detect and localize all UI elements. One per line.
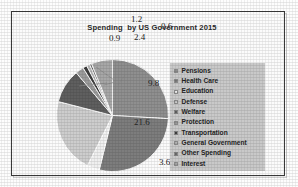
- legend-label: Interest: [182, 161, 206, 168]
- legend-item[interactable]: Transportation: [174, 128, 265, 138]
- legend-swatch-icon: [174, 162, 178, 166]
- legend-swatch-icon: [174, 121, 178, 125]
- legend-swatch-icon: [174, 100, 178, 104]
- legend-swatch-icon: [174, 110, 178, 114]
- legend-label: Defense: [182, 99, 208, 106]
- chart-screenshot: Spending by US Government 2015 25.927.92…: [0, 0, 298, 187]
- legend-item[interactable]: Welfare: [174, 107, 265, 117]
- legend-label: Other Spending: [182, 150, 231, 157]
- legend-item[interactable]: General Government: [174, 138, 265, 148]
- pie-data-label: 9.8: [148, 78, 159, 88]
- legend-label: Welfare: [182, 109, 206, 116]
- legend-label: Pensions: [182, 68, 211, 75]
- legend-label: Protection: [182, 119, 215, 126]
- pie-data-label: 21.6: [134, 117, 150, 127]
- legend-item[interactable]: Other Spending: [174, 148, 265, 158]
- pie-svg: [55, 58, 170, 173]
- legend-swatch-icon: [174, 152, 178, 156]
- legend-label: Health Care: [182, 78, 219, 85]
- legend-label: Transportation: [182, 130, 228, 137]
- legend-item[interactable]: Health Care: [174, 76, 265, 86]
- legend-swatch-icon: [174, 69, 178, 73]
- legend-item[interactable]: Defense: [174, 97, 265, 107]
- legend-item[interactable]: Education: [174, 87, 265, 97]
- pie-data-label: 0.9: [109, 33, 120, 43]
- legend-label: Education: [182, 88, 214, 95]
- legend-swatch-icon: [174, 141, 178, 145]
- chart-title: Spending by US Government 2015: [72, 23, 232, 32]
- pie-data-label: 0.6: [161, 21, 172, 31]
- chart-legend: PensionsHealth CareEducationDefenseWelfa…: [170, 63, 265, 171]
- pie-slice[interactable]: [113, 60, 169, 119]
- chart-frame: Spending by US Government 2015 25.927.92…: [11, 11, 285, 176]
- legend-item[interactable]: Interest: [174, 159, 265, 169]
- pie-data-label: 3.6: [159, 157, 170, 167]
- legend-item[interactable]: Pensions: [174, 66, 265, 76]
- pie-chart: [55, 58, 170, 173]
- legend-label: General Government: [182, 140, 247, 147]
- legend-swatch-icon: [174, 131, 178, 135]
- legend-swatch-icon: [174, 90, 178, 94]
- legend-item[interactable]: Protection: [174, 117, 265, 127]
- legend-swatch-icon: [174, 79, 178, 83]
- pie-data-label: 1.2: [131, 14, 142, 24]
- pie-data-label: 2.4: [134, 32, 145, 42]
